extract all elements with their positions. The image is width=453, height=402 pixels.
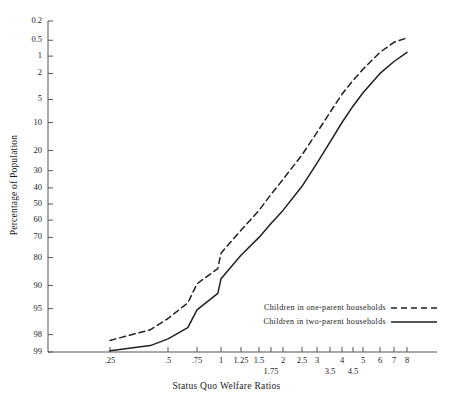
series-line-one-parent <box>110 38 407 341</box>
y-axis-tick-label: 98 <box>6 329 42 339</box>
y-axis-tick-label: 99 <box>6 346 42 356</box>
y-axis-tick-label: 1 <box>6 50 42 60</box>
x-axis-tick-label: 4.5 <box>336 366 370 376</box>
y-axis-tick-label: 2 <box>6 67 42 77</box>
y-axis-title: Percentage of Population <box>9 105 19 265</box>
y-axis-tick-label: 90 <box>6 280 42 290</box>
legend-sample-lines <box>391 308 437 322</box>
legend-item-two-parent-label: Children in two-parent households <box>186 317 386 326</box>
x-axis-tick-label: 1.75 <box>254 366 288 376</box>
y-axis-tick-label: 0.2 <box>6 15 42 25</box>
legend-item-one-parent-label: Children in one-parent households <box>186 303 386 312</box>
y-axis-tick-label: 5 <box>6 93 42 103</box>
x-axis-tick-label: 8 <box>390 355 424 365</box>
x-axis-ticks <box>110 347 407 352</box>
chart-container: 0.20.5125102030405060708090959899 .25.5.… <box>0 0 453 402</box>
chart-plot-area <box>0 0 453 402</box>
x-axis-title: Status Quo Welfare Ratios <box>0 381 453 391</box>
y-axis-ticks <box>48 21 53 352</box>
y-axis-tick-label: 95 <box>6 303 42 313</box>
y-axis-tick-label: 0.5 <box>6 34 42 44</box>
x-axis-tick-label: .25 <box>93 355 127 365</box>
